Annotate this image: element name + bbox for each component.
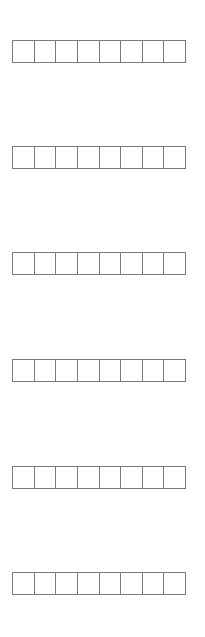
box-cell — [164, 467, 185, 488]
box-cell — [13, 41, 35, 62]
box-cell — [100, 41, 122, 62]
box-cell — [143, 253, 165, 274]
box-cell — [35, 253, 57, 274]
box-row-3 — [12, 252, 186, 275]
box-cell — [164, 573, 185, 594]
box-cell — [78, 253, 100, 274]
box-cell — [78, 573, 100, 594]
box-cell — [143, 147, 165, 168]
box-cell — [35, 467, 57, 488]
box-cell — [121, 147, 143, 168]
box-cell — [13, 253, 35, 274]
box-cell — [56, 573, 78, 594]
box-cell — [100, 467, 122, 488]
box-cell — [13, 147, 35, 168]
box-cell — [100, 253, 122, 274]
box-cell — [56, 147, 78, 168]
box-row-4 — [12, 359, 186, 382]
box-cell — [100, 147, 122, 168]
box-cell — [121, 573, 143, 594]
box-cell — [143, 573, 165, 594]
box-row-2 — [12, 146, 186, 169]
box-cell — [100, 360, 122, 381]
box-cell — [56, 253, 78, 274]
box-cell — [13, 467, 35, 488]
box-cell — [143, 467, 165, 488]
box-cell — [13, 360, 35, 381]
box-cell — [78, 41, 100, 62]
box-cell — [56, 467, 78, 488]
box-cell — [164, 41, 185, 62]
box-cell — [35, 360, 57, 381]
box-cell — [56, 360, 78, 381]
box-cell — [100, 573, 122, 594]
box-cell — [121, 467, 143, 488]
box-cell — [143, 360, 165, 381]
box-cell — [78, 147, 100, 168]
box-cell — [78, 467, 100, 488]
box-cell — [35, 41, 57, 62]
box-cell — [121, 41, 143, 62]
box-row-1 — [12, 40, 186, 63]
box-row-6 — [12, 572, 186, 595]
box-cell — [121, 360, 143, 381]
box-cell — [121, 253, 143, 274]
box-cell — [164, 253, 185, 274]
box-cell — [143, 41, 165, 62]
box-cell — [164, 360, 185, 381]
box-cell — [78, 360, 100, 381]
box-cell — [164, 147, 185, 168]
box-cell — [35, 147, 57, 168]
box-cell — [13, 573, 35, 594]
box-cell — [56, 41, 78, 62]
box-cell — [35, 573, 57, 594]
box-row-5 — [12, 466, 186, 489]
